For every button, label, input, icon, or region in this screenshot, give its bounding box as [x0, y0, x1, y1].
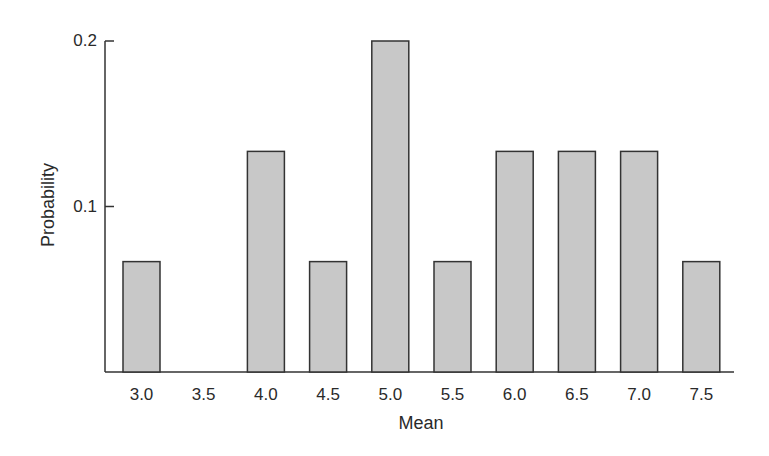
x-tick-label: 7.0: [627, 385, 651, 405]
bar-5.0: [372, 41, 409, 372]
bar-7.0: [621, 151, 658, 372]
x-tick-label: 6.5: [565, 385, 589, 405]
x-tick-label: 4.0: [254, 385, 278, 405]
y-tick-label: 0.2: [73, 31, 97, 51]
bar-7.5: [683, 262, 720, 372]
x-tick-label: 5.5: [441, 385, 465, 405]
x-tick-label: 3.5: [192, 385, 216, 405]
bar-3.0: [123, 262, 160, 372]
x-tick-label: 3.0: [130, 385, 154, 405]
bar-4.0: [247, 151, 284, 372]
x-tick-label: 4.5: [316, 385, 340, 405]
x-tick-label: 6.0: [503, 385, 527, 405]
bar-5.5: [434, 262, 471, 372]
bar-4.5: [310, 262, 347, 372]
y-axis-label: Probability: [38, 163, 59, 247]
x-axis-label: Mean: [398, 413, 443, 434]
x-tick-label: 5.0: [378, 385, 402, 405]
bar-6.5: [558, 151, 595, 372]
bar-6.0: [496, 151, 533, 372]
y-tick-label: 0.1: [73, 197, 97, 217]
x-tick-label: 7.5: [689, 385, 713, 405]
bar-chart: Probability Mean 0.10.2 3.03.54.04.55.05…: [0, 0, 769, 456]
